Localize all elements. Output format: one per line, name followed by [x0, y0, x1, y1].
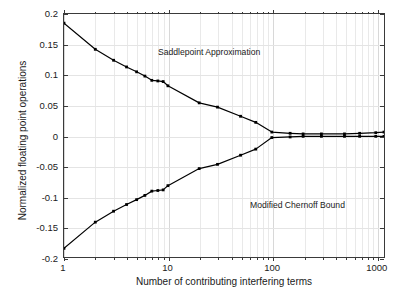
y-tick: [64, 45, 68, 46]
x-tick-minor-top: [373, 12, 374, 15]
annotation-saddlepoint: Saddlepoint Approximation: [158, 47, 260, 57]
x-tick-minor: [257, 257, 258, 260]
data-point-marker: [270, 136, 273, 139]
data-point-marker: [216, 106, 219, 109]
y-tick: [64, 137, 68, 138]
x-tick-minor: [158, 257, 159, 260]
x-tick-minor-top: [305, 12, 306, 15]
data-point-marker: [343, 135, 346, 138]
y-tick: [64, 167, 68, 168]
x-tick-major: [378, 257, 379, 261]
x-tick-minor: [305, 257, 306, 260]
x-tick-minor: [242, 257, 243, 260]
x-tick-minor: [336, 257, 337, 260]
data-point-marker: [254, 121, 257, 124]
x-tick-minor-top: [200, 12, 201, 15]
x-tick-minor: [355, 257, 356, 260]
y-tick: [64, 198, 68, 199]
data-point-marker: [289, 132, 292, 135]
data-point-marker: [112, 59, 115, 62]
y-tick: [64, 228, 68, 229]
x-tick-minor: [323, 257, 324, 260]
data-point-marker: [94, 221, 97, 224]
data-point-marker: [383, 131, 384, 134]
x-tick-label: 10: [162, 262, 173, 273]
data-point-marker: [150, 190, 153, 193]
x-tick-minor: [263, 257, 264, 260]
y-tick-right: [380, 75, 384, 76]
data-point-marker: [167, 184, 170, 187]
x-tick-minor-top: [346, 12, 347, 15]
y-tick-right: [380, 259, 384, 260]
series-line: [64, 136, 384, 248]
data-point-marker: [143, 194, 146, 197]
x-tick-minor-top: [127, 12, 128, 15]
data-point-marker: [143, 75, 146, 78]
x-tick-minor-top: [137, 12, 138, 15]
x-tick-major-top: [378, 10, 379, 14]
y-tick-label: 0.2: [0, 8, 58, 19]
x-tick-minor-top: [263, 12, 264, 15]
y-tick: [64, 106, 68, 107]
data-point-marker: [374, 131, 377, 134]
x-tick-minor: [137, 257, 138, 260]
x-tick-minor-top: [164, 12, 165, 15]
series-line: [64, 23, 384, 134]
data-point-marker: [162, 189, 165, 192]
data-point-marker: [135, 198, 138, 201]
x-tick-minor-top: [250, 12, 251, 15]
data-point-marker: [156, 189, 159, 192]
data-point-marker: [374, 135, 377, 138]
data-point-marker: [302, 135, 305, 138]
y-tick-label: -0.15: [0, 222, 58, 233]
y-tick-label: -0.2: [0, 253, 58, 264]
data-point-marker: [239, 115, 242, 118]
data-point-marker: [302, 133, 305, 136]
x-tick-major-top: [169, 10, 170, 14]
y-tick-right: [380, 167, 384, 168]
x-tick-minor-top: [268, 12, 269, 15]
data-point-marker: [358, 135, 361, 138]
y-tick: [64, 259, 68, 260]
y-axis-title: Normalized floating point operations: [17, 26, 28, 256]
x-tick-minor-top: [242, 12, 243, 15]
data-point-marker: [320, 135, 323, 138]
data-point-marker: [94, 48, 97, 51]
x-tick-minor: [373, 257, 374, 260]
data-point-marker: [125, 66, 128, 69]
x-tick-major: [273, 257, 274, 261]
x-tick-minor: [218, 257, 219, 260]
y-tick-label: 0: [0, 130, 58, 141]
x-tick-minor-top: [368, 12, 369, 15]
y-tick-right: [380, 14, 384, 15]
y-tick-right: [380, 198, 384, 199]
x-tick-minor-top: [145, 12, 146, 15]
x-tick-minor: [127, 257, 128, 260]
x-tick-label: 1000: [366, 262, 387, 273]
x-tick-major-top: [273, 10, 274, 14]
x-tick-minor: [250, 257, 251, 260]
x-tick-minor-top: [95, 12, 96, 15]
data-point-marker: [150, 79, 153, 82]
data-point-marker: [162, 80, 165, 83]
data-point-marker: [320, 133, 323, 136]
x-tick-minor: [114, 257, 115, 260]
x-tick-minor-top: [336, 12, 337, 15]
data-point-marker: [270, 131, 273, 134]
data-point-marker: [64, 22, 65, 25]
figure: Saddlepoint Approximation Modified Chern…: [0, 0, 405, 301]
x-tick-minor-top: [355, 12, 356, 15]
x-tick-minor: [346, 257, 347, 260]
data-point-marker: [64, 247, 65, 250]
x-tick-minor-top: [362, 12, 363, 15]
x-tick-minor-top: [152, 12, 153, 15]
data-point-marker: [125, 203, 128, 206]
x-tick-minor: [362, 257, 363, 260]
y-tick: [64, 14, 68, 15]
x-tick-minor-top: [257, 12, 258, 15]
series-1: [64, 22, 384, 136]
plot-area: Saddlepoint Approximation Modified Chern…: [63, 13, 385, 258]
data-point-marker: [289, 136, 292, 139]
x-tick-major: [169, 257, 170, 261]
x-tick-minor-top: [218, 12, 219, 15]
